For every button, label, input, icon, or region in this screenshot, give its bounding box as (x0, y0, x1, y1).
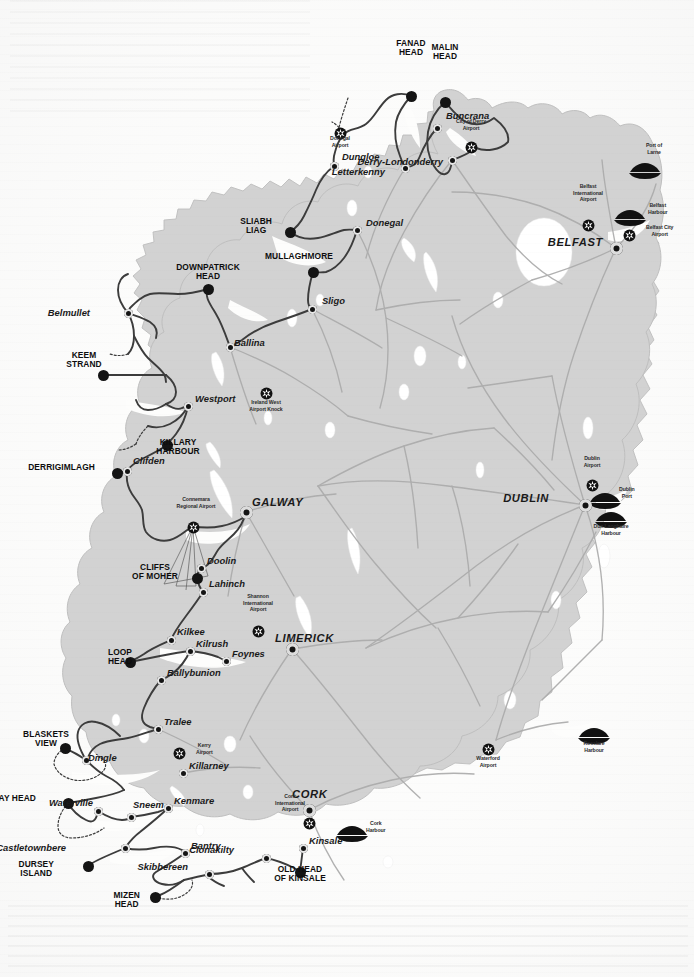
signature-point-label-blaskets-view: BLASKETS VIEW (23, 730, 69, 748)
signature-point-marker-mizen-head[interactable] (150, 892, 161, 903)
airport-label-belfast-international-airport: Belfast International Airport (573, 183, 603, 203)
signature-point-label-killary-harbour: KILLARY HARBOUR (156, 438, 200, 456)
airport-label-cork-international-airport: Cork International Airport (275, 793, 305, 813)
town-marker-sneem[interactable] (127, 813, 136, 822)
airport-icon-kerry-airport[interactable] (173, 746, 186, 759)
airport-label-ireland-west-airport-knock: Ireland West Airport Knock (249, 399, 282, 412)
city-label-limerick: LIMERICK (275, 633, 334, 644)
town-label-ballybunion: Ballybunion (167, 668, 221, 678)
city-label-galway: GALWAY (252, 497, 303, 508)
town-marker-donegal[interactable] (353, 226, 362, 235)
town-marker-ballybunion[interactable] (157, 676, 166, 685)
town-marker-kilkee[interactable] (167, 636, 176, 645)
signature-point-marker-mullaghmore[interactable] (308, 267, 319, 278)
town-marker-tralee[interactable] (154, 725, 163, 734)
town-marker-clonakilty[interactable] (262, 854, 271, 863)
signature-point-label-mizen-head: MIZEN HEAD (113, 891, 140, 909)
harbour-label-dublin-port: Dublin Port (619, 486, 635, 499)
airport-icon-cork-international-airport[interactable] (303, 816, 316, 829)
signature-point-marker-fanad-head[interactable] (406, 91, 417, 102)
town-label-ballina: Ballina (234, 338, 265, 348)
signature-point-marker-cliffs-of-moher[interactable] (192, 573, 203, 584)
city-marker-galway[interactable] (240, 506, 253, 519)
signature-point-marker-malin-head[interactable] (440, 97, 451, 108)
city-marker-belfast[interactable] (610, 242, 623, 255)
town-label-foynes: Foynes (232, 649, 265, 659)
town-label-sligo: Sligo (322, 296, 345, 306)
airport-icon-city-of-derry-airport[interactable] (465, 140, 478, 153)
airport-icon-ireland-west-airport-knock[interactable] (260, 386, 273, 399)
signature-point-marker-dursey-island[interactable] (83, 861, 94, 872)
map-page: MALIN HEADFANAD HEADSLIABH LIAGMULLAGHMO… (0, 0, 694, 977)
town-label-tralee: Tralee (164, 717, 191, 727)
city-label-belfast: BELFAST (548, 237, 603, 248)
airport-icon-connemara-regional-airport[interactable] (187, 520, 200, 533)
town-marker-belmullet[interactable] (124, 309, 133, 318)
town-marker-westport[interactable] (184, 402, 193, 411)
town-label-clifden: Clifden (133, 456, 165, 466)
town-marker-foynes[interactable] (222, 657, 231, 666)
signature-point-marker-keem-strand[interactable] (98, 370, 109, 381)
signature-point-label-cliffs-of-moher: CLIFFS OF MOHER (132, 563, 178, 581)
town-marker-waterville[interactable] (94, 807, 103, 816)
town-label-skibbereen: Skibbereen (137, 862, 188, 872)
town-label-letterkenny: Letterkenny (332, 167, 385, 177)
airport-label-kerry-airport: Kerry Airport (196, 742, 213, 755)
airport-icon-belfast-city-airport[interactable] (623, 228, 636, 241)
town-marker-kenmare[interactable] (164, 804, 173, 813)
airport-icon-waterford-airport[interactable] (482, 742, 495, 755)
signature-point-label-old-head-of-kinsale: OLD HEAD OF KINSALE (274, 865, 326, 883)
signature-point-label-malin-head: MALIN HEAD (431, 43, 458, 61)
town-label-derry-londonderry: Derry-Londonderry (358, 157, 443, 167)
town-marker-killarney[interactable] (179, 769, 188, 778)
signature-point-label-downpatrick-head: DOWNPATRICK HEAD (176, 263, 240, 281)
signature-point-label-sliabh-liag: SLIABH LIAG (240, 217, 272, 235)
airport-icon-dublin-airport[interactable] (586, 478, 599, 491)
town-label-castletownbere: Castletownbere (0, 843, 66, 853)
airport-label-city-of-derry-airport: City of Derry Airport (456, 118, 486, 131)
signature-point-label-derrigimlagh: DERRIGIMLAGH (28, 463, 95, 472)
town-marker-bantry[interactable] (181, 849, 190, 858)
town-label-belmullet: Belmullet (48, 308, 90, 318)
town-label-doolin: Doolin (207, 556, 236, 566)
airport-icon-shannon-international-airport[interactable] (252, 624, 265, 637)
city-marker-dublin[interactable] (579, 499, 592, 512)
town-label-kinsale: Kinsale (309, 836, 342, 846)
town-marker-kinsale[interactable] (299, 844, 308, 853)
town-label-waterville: Waterville (49, 798, 93, 808)
signature-point-marker-downpatrick-head[interactable] (203, 284, 214, 295)
town-label-kilkee: Kilkee (177, 627, 205, 637)
town-marker-castletownbere[interactable] (121, 844, 130, 853)
harbour-label-belfast-harbour: Belfast Harbour (648, 202, 667, 215)
airport-label-connemara-regional-airport: Connemara Regional Airport (177, 496, 216, 509)
harbour-label-rosslare-harbour: Rosslare Harbour (583, 740, 604, 753)
town-marker-doolin[interactable] (197, 564, 206, 573)
signature-point-label-mullaghmore: MULLAGHMORE (265, 252, 333, 261)
signature-point-label-fanad-head: FANAD HEAD (396, 39, 425, 57)
signature-point-label-dursey-island: DURSEY ISLAND (18, 860, 54, 878)
town-marker-lahinch[interactable] (199, 588, 208, 597)
airport-label-donegal-airport: Donegal Airport (330, 135, 350, 148)
town-marker-skibbereen[interactable] (205, 870, 214, 879)
town-label-donegal: Donegal (366, 218, 403, 228)
airport-label-shannon-international-airport: Shannon International Airport (243, 593, 273, 613)
town-marker-kilrush[interactable] (186, 647, 195, 656)
airport-icon-belfast-international-airport[interactable] (582, 218, 595, 231)
town-label-sneem: Sneem (133, 800, 164, 810)
town-marker-derry-londonderry[interactable] (448, 156, 457, 165)
harbour-label-cork-harbour: Cork Harbour (366, 820, 385, 833)
airport-label-dublin-airport: Dublin Airport (584, 455, 601, 468)
town-marker-sligo[interactable] (308, 305, 317, 314)
town-label-killarney: Killarney (189, 761, 229, 771)
city-label-dublin: DUBLIN (503, 493, 549, 504)
signature-point-label-keem-strand: KEEM STRAND (66, 351, 102, 369)
town-marker-clifden[interactable] (123, 467, 132, 476)
town-label-clonakilty: Clonakilty (189, 845, 234, 855)
town-label-dingle: Dingle (88, 753, 117, 763)
harbour-label-port-of-larne: Port of Larne (646, 142, 662, 155)
harbour-label-dun-laoghaire-harbour: Dun Laoghaire Harbour (593, 523, 628, 536)
signature-point-marker-sliabh-liag[interactable] (285, 227, 296, 238)
signature-point-marker-derrigimlagh[interactable] (112, 468, 123, 479)
town-marker-buncrana[interactable] (433, 124, 442, 133)
town-label-lahinch: Lahinch (209, 579, 245, 589)
